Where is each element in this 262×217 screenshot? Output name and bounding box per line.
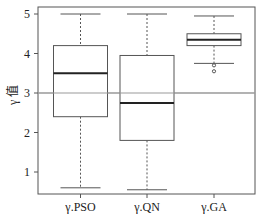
y-tick-label: 4 (24, 47, 30, 61)
y-tick-label: 2 (24, 126, 30, 140)
x-tick-label: γ.PSO (64, 200, 96, 214)
y-tick-label: 1 (24, 165, 30, 179)
outlier-point (212, 64, 215, 67)
x-tick-label: γ.GA (200, 200, 227, 214)
box-iqr (120, 55, 174, 140)
box-plot: 12345γ.PSOγ.QNγ.GA (0, 0, 262, 217)
outlier-point (212, 70, 215, 73)
y-tick-label: 5 (24, 7, 30, 21)
x-tick-label: γ.QN (133, 200, 160, 214)
y-tick-label: 3 (24, 86, 30, 100)
box-iqr (54, 46, 108, 117)
